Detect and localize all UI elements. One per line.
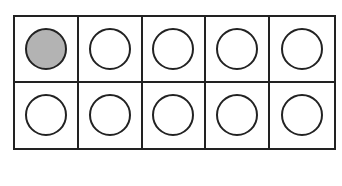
ten-frame-cell (15, 17, 79, 83)
empty-counter-circle (216, 94, 258, 136)
empty-counter-circle (89, 28, 131, 70)
empty-counter-circle (281, 28, 323, 70)
empty-counter-circle (89, 94, 131, 136)
ten-frame-cell (270, 17, 334, 83)
ten-frame-cell (206, 83, 270, 149)
empty-counter-circle (152, 28, 194, 70)
ten-frame-cell (270, 83, 334, 149)
ten-frame (13, 15, 336, 150)
ten-frame-cell (79, 83, 143, 149)
ten-frame-cell (206, 17, 270, 83)
empty-counter-circle (216, 28, 258, 70)
ten-frame-cell (15, 83, 79, 149)
ten-frame-cell (79, 17, 143, 83)
ten-frame-cell (143, 17, 207, 83)
filled-counter-circle (25, 28, 67, 70)
empty-counter-circle (25, 94, 67, 136)
empty-counter-circle (281, 94, 323, 136)
ten-frame-cell (143, 83, 207, 149)
empty-counter-circle (152, 94, 194, 136)
